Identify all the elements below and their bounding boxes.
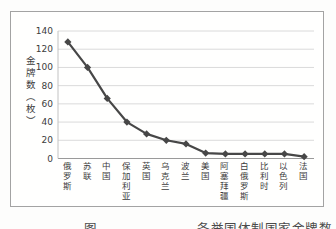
y-tick-label: 120	[11, 45, 53, 54]
figure-caption-title: 各举国体制国家金牌数	[197, 221, 332, 229]
y-tick-label: 40	[11, 118, 53, 127]
x-category-label: 苏联	[81, 162, 90, 182]
y-tick-label: 100	[11, 63, 53, 72]
data-line	[68, 42, 304, 157]
x-category-label: 阿塞拜疆	[219, 162, 228, 202]
data-point-marker	[202, 149, 209, 156]
data-point-marker	[301, 153, 308, 160]
x-category-label: 法国	[298, 162, 307, 182]
x-category-label: 乌克兰	[160, 162, 169, 192]
x-category-label: 以色列	[278, 162, 287, 192]
x-category-label: 英国	[140, 162, 149, 182]
y-tick-label: 140	[11, 27, 53, 36]
data-point-marker	[241, 150, 248, 157]
data-point-marker	[261, 150, 268, 157]
x-category-label: 白俄罗斯	[239, 162, 248, 202]
y-tick-label: 80	[11, 81, 53, 90]
data-point-marker	[163, 137, 170, 144]
x-category-label: 波兰	[180, 162, 189, 182]
data-point-marker	[182, 140, 189, 147]
y-tick-label: 0	[11, 154, 53, 163]
x-category-label: 中国	[101, 162, 110, 182]
y-tick-label: 60	[11, 99, 53, 108]
x-category-label: 比利时	[258, 162, 267, 192]
data-point-marker	[281, 150, 288, 157]
data-point-marker	[222, 150, 229, 157]
figure-caption-label: 图	[84, 221, 97, 229]
x-category-label: 美国	[199, 162, 208, 182]
chart-panel: 金牌数（枚） 020406080100120140 俄罗斯苏联中国保加利亚英国乌…	[10, 11, 324, 207]
y-tick-label: 20	[11, 136, 53, 145]
x-category-label: 保加利亚	[120, 162, 129, 202]
x-category-label: 俄罗斯	[61, 162, 70, 192]
